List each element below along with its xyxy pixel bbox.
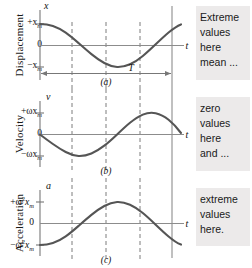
panel-c-plot: a t [0,178,190,267]
panel-a-plot: T x t [0,0,190,89]
panel-acceleration: Acceleration +ω2xm 0 −ω2xm a t (c) [0,178,190,267]
period-arrow-left-head [41,71,47,76]
note-3-line-1: extreme [200,192,247,207]
period-arrow-right-head [165,71,171,76]
note-3-line-2: values [200,207,247,222]
note-1-line-2: values [200,25,247,40]
note-1-line-3: here [200,40,247,55]
note-2-line-4: and ... [200,146,247,161]
panel-a-caption: (a) [86,77,126,87]
note-2-line-3: here [200,131,247,146]
panel-b-axis-letter: v [46,91,51,102]
panel-displacement: Displacement +xm 0 −xm [0,0,190,89]
annotation-note-acceleration: extreme values here. [196,188,250,246]
panel-a-t-label: t [186,40,189,51]
panel-b-caption: (b) [86,166,126,176]
panel-b-t-label: t [186,129,189,140]
panel-a-axis-letter: x [43,0,49,11]
shm-graphs-figure: Displacement +xm 0 −xm [0,0,252,268]
note-2-line-1: zero [200,101,247,116]
panel-c-axis-letter: a [46,180,51,191]
annotation-note-velocity: zero values here and ... [196,97,250,171]
note-3-line-3: here. [200,222,247,237]
note-1-line-4: mean ... [200,55,247,70]
panel-c-t-label: t [186,218,189,229]
note-2-line-2: values [200,116,247,131]
panel-velocity: Velocity +ωxm 0 −ωxm v t (b) [0,89,190,178]
annotation-note-displacement: Extreme values here mean ... [196,6,250,80]
panel-c-caption: (c) [86,255,126,265]
note-1-line-1: Extreme [200,10,247,25]
panel-b-plot: v t [0,89,190,178]
period-label: T [128,62,135,73]
